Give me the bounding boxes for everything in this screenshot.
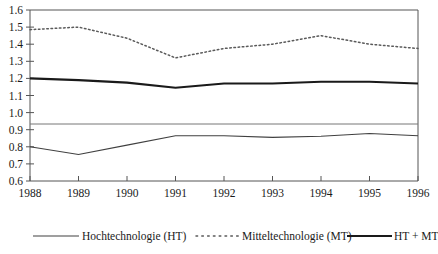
x-tick-label: 1991	[164, 187, 187, 199]
y-tick-label: 0.7	[9, 158, 24, 170]
legend-label-mitteltechnologie: Mitteltechnologie (MT)	[242, 230, 352, 243]
x-tick-label: 1989	[67, 187, 90, 199]
y-tick-label: 1.3	[9, 55, 24, 67]
x-tick-label: 1990	[116, 187, 139, 199]
x-tick-label: 1995	[358, 187, 381, 199]
y-tick-label: 1.0	[9, 107, 24, 119]
line-chart: 1.6 1.5 1.4 1.3 1.2 1.1 1.0 0.9 0.8 0.7 …	[0, 0, 438, 254]
y-tick-label: 1.4	[9, 38, 24, 50]
legend-label-hochtechnologie: Hochtechnologie (HT)	[82, 230, 187, 243]
x-tick-label: 1992	[213, 187, 236, 199]
x-tick-label: 1993	[261, 187, 284, 199]
y-tick-label: 1.6	[9, 4, 24, 16]
chart-legend: Hochtechnologie (HT) Mitteltechnologie (…	[33, 230, 438, 243]
chart-container: 1.6 1.5 1.4 1.3 1.2 1.1 1.0 0.9 0.8 0.7 …	[0, 0, 438, 254]
x-tick-label: 1988	[19, 187, 42, 199]
y-tick-label: 1.2	[9, 72, 24, 84]
x-axis-labels: 1988 1989 1990 1991 1992 1993 1994 1995 …	[19, 187, 430, 199]
y-tick-label: 0.6	[9, 175, 24, 187]
y-tick-label: 0.9	[9, 124, 24, 136]
plot-area-background	[30, 10, 418, 181]
y-tick-label: 1.5	[9, 21, 24, 33]
legend-label-ht-plus-mt: HT + MT	[394, 230, 438, 242]
y-tick-label: 0.8	[9, 141, 24, 153]
x-tick-label: 1994	[310, 187, 333, 199]
y-axis-labels: 1.6 1.5 1.4 1.3 1.2 1.1 1.0 0.9 0.8 0.7 …	[9, 4, 24, 187]
x-tick-label: 1996	[407, 187, 430, 199]
y-tick-label: 1.1	[9, 90, 24, 102]
